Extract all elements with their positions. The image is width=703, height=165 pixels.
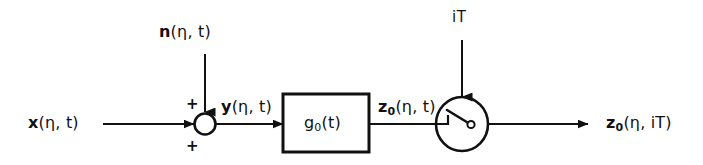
input-signal-label: x(η, t) — [28, 115, 79, 131]
sampled-output-symbol: z — [606, 113, 616, 132]
summing-junction-plus-bottom: + — [186, 139, 199, 154]
diagram-canvas — [0, 0, 703, 165]
summing-junction-plus-top: + — [186, 97, 199, 112]
filter-symbol: g — [304, 113, 314, 132]
noise-signal-args: (η, t) — [171, 22, 211, 41]
noise-signal-symbol: n — [159, 22, 171, 41]
sampled-output-args: (η, iT) — [623, 113, 671, 132]
sum-output-label: y(η, t) — [221, 99, 272, 115]
filter-output-label: z0(η, t) — [378, 99, 436, 117]
input-signal-args: (η, t) — [39, 113, 79, 132]
input-signal-symbol: x — [28, 113, 39, 132]
summing-junction-circle — [195, 114, 216, 135]
filter-args: (t) — [322, 113, 341, 132]
filter-output-args: (η, t) — [395, 97, 435, 116]
filter-output-symbol: z — [378, 97, 388, 116]
block-diagram: x(η, t) n(η, t) + + y(η, t) g0(t) z0(η, … — [0, 0, 703, 165]
noise-signal-label: n(η, t) — [159, 24, 211, 40]
filter-subscript: 0 — [314, 121, 321, 134]
sampled-output-label: z0(η, iT) — [606, 115, 672, 133]
sum-output-symbol: y — [221, 97, 232, 116]
sampler-pivot — [467, 121, 474, 128]
clock-label: iT — [452, 10, 466, 25]
filter-block-label: g0(t) — [304, 115, 341, 133]
sum-output-args: (η, t) — [232, 97, 272, 116]
